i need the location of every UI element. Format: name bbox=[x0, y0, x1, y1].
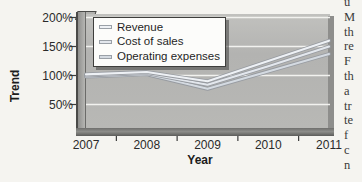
page-text-fragment: th bbox=[344, 69, 354, 84]
chart-floor bbox=[76, 128, 334, 136]
y-tick-label: 200% bbox=[30, 11, 73, 25]
x-tick-label: 2009 bbox=[186, 138, 230, 152]
page-text-fragment: re bbox=[344, 39, 354, 54]
y-axis-tick-labels: 200%150%100%50% bbox=[30, 0, 73, 182]
page-text-fragment: F bbox=[344, 54, 351, 69]
page-text-fragment: M bbox=[344, 10, 355, 25]
x-tick-label: 2010 bbox=[246, 138, 290, 152]
y-tick-label: 150% bbox=[30, 40, 73, 54]
x-axis-title: Year bbox=[180, 153, 220, 167]
chart-left-wall bbox=[76, 12, 86, 136]
page-text-fragment: u bbox=[344, 0, 350, 10]
y-tick-label: 50% bbox=[30, 98, 73, 112]
legend-item-revenue: Revenue bbox=[99, 22, 220, 34]
x-tick-label: 2008 bbox=[125, 138, 169, 152]
legend-marker-icon bbox=[99, 40, 112, 44]
page-text-fragment: th bbox=[344, 25, 354, 40]
legend-label: Cost of sales bbox=[117, 36, 183, 48]
legend-marker-icon bbox=[99, 55, 112, 59]
page-text-fragment: a bbox=[344, 84, 350, 99]
legend-marker-icon bbox=[99, 25, 112, 29]
legend-label: Operating expenses bbox=[117, 51, 220, 63]
y-tick-label: 100% bbox=[30, 69, 73, 83]
legend-item-operating-expenses: Operating expenses bbox=[99, 51, 220, 63]
y-axis-title: Trend bbox=[8, 57, 22, 115]
page-text-fragment: te bbox=[344, 113, 353, 128]
x-tick-label: 2007 bbox=[64, 138, 108, 152]
page-text-fragment: f bbox=[344, 128, 348, 143]
figure: Trend Year 200%150%100%50% 2007200820092… bbox=[0, 0, 362, 182]
chart-right-shadow bbox=[328, 16, 334, 128]
page-text-fragment: c bbox=[344, 143, 350, 158]
legend: RevenueCost of salesOperating expenses bbox=[93, 17, 226, 67]
page-text-fragment: n bbox=[344, 158, 350, 173]
legend-item-cost-of-sales: Cost of sales bbox=[99, 36, 220, 48]
page-text-fragment: tr bbox=[344, 99, 352, 114]
legend-label: Revenue bbox=[117, 22, 163, 34]
